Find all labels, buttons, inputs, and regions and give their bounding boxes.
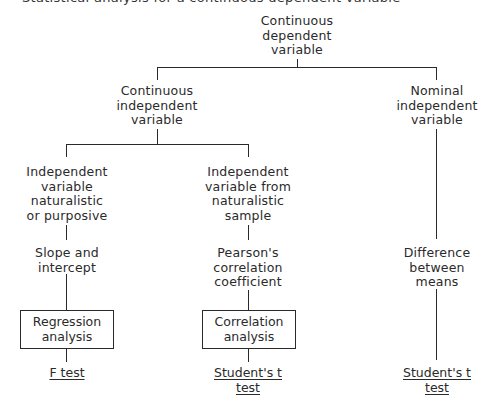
box-correlation-analysis: Correlation analysis [202, 310, 296, 349]
connector-to-naturalistic [248, 144, 249, 157]
test-f-test-label: F test [49, 366, 84, 381]
node-continuous-independent-variable: Continuous independent variable [116, 84, 197, 128]
test-students-t-means: Student's t test [403, 366, 471, 395]
connector-continuous-iv-down [157, 129, 158, 144]
node-pearsons-correlation-coefficient: Pearson's correlation coefficient [213, 246, 282, 290]
caption-cut-off: Statistical analysis for a continuous de… [22, 0, 401, 5]
test-f-test: F test [49, 366, 84, 381]
box-regression-analysis: Regression analysis [20, 310, 114, 349]
connector-pearson-to-correlation [248, 290, 249, 310]
connector-to-nominal-iv [436, 67, 437, 80]
test-students-t-line2: test [403, 381, 471, 396]
connector-naturalistic-to-pearson [248, 225, 249, 240]
test-students-t-correlation: Student's t test [214, 366, 282, 395]
node-iv-from-naturalistic-sample: Independent variable from naturalistic s… [205, 165, 291, 223]
test-students-t-line1: Student's t [214, 366, 282, 381]
test-students-t-line2: test [214, 381, 282, 396]
connector-difference-to-ttest [436, 289, 437, 360]
test-students-t-line1: Student's t [403, 366, 471, 381]
connector-root-down [297, 59, 298, 67]
connector-slope-to-regression [66, 274, 67, 310]
connector-continuous-horizontal [66, 144, 249, 145]
node-nominal-independent-variable: Nominal independent variable [396, 84, 477, 128]
connector-correlation-to-t-test [248, 349, 249, 362]
node-difference-between-means: Difference between means [404, 246, 471, 290]
node-slope-and-intercept: Slope and intercept [35, 246, 99, 275]
node-continuous-dependent-variable: Continuous dependent variable [261, 14, 334, 58]
connector-root-horizontal [157, 67, 437, 68]
connector-to-purposive [66, 144, 67, 157]
connector-purposive-to-slope [66, 225, 67, 240]
node-iv-naturalistic-or-purposive: Independent variable naturalistic or pur… [26, 165, 107, 223]
connector-regression-to-f-test [66, 349, 67, 362]
connector-nominal-to-difference [436, 129, 437, 239]
connector-to-continuous-iv [157, 67, 158, 80]
